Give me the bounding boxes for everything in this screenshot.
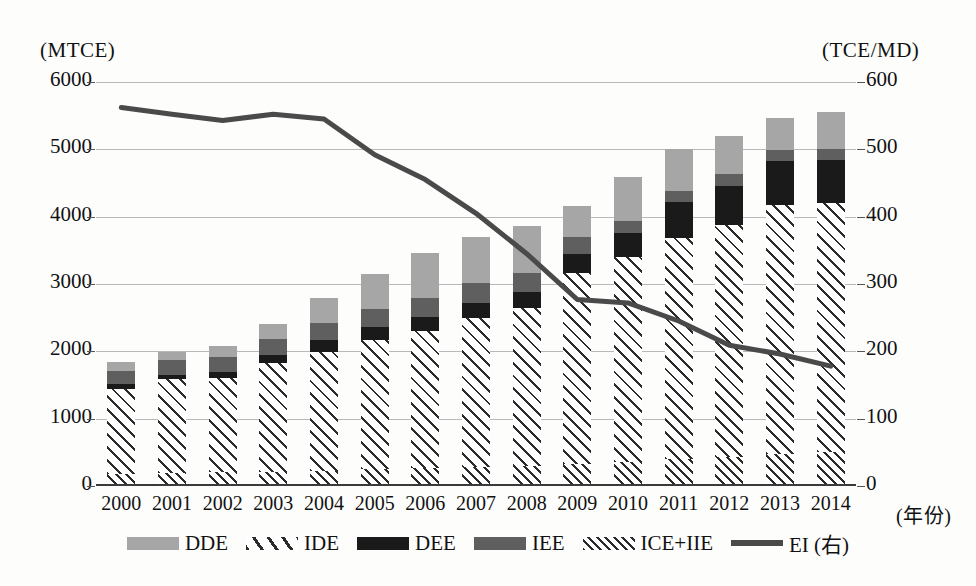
bar-segment-iee (158, 360, 186, 374)
bar-2005 (361, 274, 389, 486)
bar-segment-ide (107, 389, 135, 474)
bar-segment-dde (259, 324, 287, 338)
bar-segment-dde (209, 346, 237, 357)
x-tick-label-2010: 2010 (602, 492, 654, 515)
bar-segment-iee (361, 309, 389, 327)
legend-label: ICE+IIE (641, 531, 714, 556)
legend-item-ice+iie[interactable]: ICE+IIE (583, 531, 714, 556)
right-tick-label: 100 (866, 404, 956, 429)
legend-label: EI (右) (789, 528, 849, 558)
left-axis-unit-label: (MTCE) (40, 38, 115, 63)
bar-2008 (513, 226, 541, 486)
bar-2012 (715, 136, 743, 486)
right-tick-label: 300 (866, 269, 956, 294)
bar-segment-ide (209, 378, 237, 472)
legend-item-iee[interactable]: IEE (474, 531, 565, 556)
left-tick-mark (87, 149, 95, 150)
bar-segment-dde (462, 237, 490, 283)
right-tick-mark (857, 82, 865, 83)
bar-segment-ide (310, 352, 338, 471)
bar-segment-ice-iie (614, 462, 642, 486)
bar-segment-ide (817, 203, 845, 453)
left-tick-mark (87, 284, 95, 285)
x-tick-label-2006: 2006 (399, 492, 451, 515)
cross-hatch-icon (583, 537, 635, 550)
bar-segment-dee (817, 160, 845, 202)
bar-2001 (158, 352, 186, 486)
bar-segment-ide (361, 340, 389, 469)
left-tick-label: 3000 (0, 269, 92, 294)
right-tick-mark (857, 149, 865, 150)
left-tick-mark (87, 217, 95, 218)
bar-segment-dde (766, 118, 794, 150)
bar-2014 (817, 112, 845, 486)
bar-segment-ice-iie (766, 454, 794, 486)
right-tick-mark (857, 284, 865, 285)
legend-item-ide[interactable]: IDE (246, 531, 339, 556)
legend-label: DDE (185, 531, 228, 556)
gridline (96, 82, 856, 83)
bar-2003 (259, 324, 287, 486)
bar-segment-iee (715, 174, 743, 185)
bar-segment-iee (766, 150, 794, 161)
x-tick-label-2004: 2004 (298, 492, 350, 515)
legend-item-dde[interactable]: DDE (127, 531, 228, 556)
left-tick-label: 6000 (0, 67, 92, 92)
x-tick-label-2003: 2003 (247, 492, 299, 515)
bar-segment-dee (614, 233, 642, 257)
bar-segment-dee (462, 303, 490, 318)
x-tick-label-2001: 2001 (146, 492, 198, 515)
x-tick-label-2002: 2002 (197, 492, 249, 515)
bar-segment-ide (715, 225, 743, 457)
bar-segment-ide (259, 363, 287, 471)
bar-segment-dee (411, 317, 439, 330)
bar-segment-dde (715, 136, 743, 174)
black-icon (357, 537, 409, 550)
bar-segment-dde (665, 149, 693, 191)
bar-segment-dde (411, 253, 439, 297)
x-tick-label-2005: 2005 (349, 492, 401, 515)
bar-segment-iee (209, 357, 237, 372)
bar-2013 (766, 118, 794, 486)
legend-item-ei[interactable]: EI (右) (731, 528, 849, 558)
bar-segment-ide (411, 331, 439, 468)
bar-segment-iee (563, 237, 591, 255)
bar-2006 (411, 253, 439, 486)
bar-segment-dde (310, 298, 338, 322)
bar-segment-dee (310, 340, 338, 352)
bar-segment-dee (715, 186, 743, 225)
bar-segment-iee (310, 323, 338, 341)
plot-area (96, 82, 856, 486)
bar-2010 (614, 177, 642, 486)
x-tick-label-2009: 2009 (551, 492, 603, 515)
right-tick-label: 0 (866, 471, 956, 496)
left-tick-label: 1000 (0, 404, 92, 429)
line-icon (731, 540, 783, 546)
bar-segment-ide (665, 238, 693, 459)
legend-label: DEE (415, 531, 456, 556)
legend: DDEIDEDEEIEEICE+IIEEI (右) (0, 528, 976, 558)
bar-segment-dde (107, 362, 135, 371)
left-tick-label: 5000 (0, 134, 92, 159)
bar-2007 (462, 237, 490, 486)
left-tick-mark (87, 351, 95, 352)
left-tick-label: 0 (0, 471, 92, 496)
bar-segment-dee (107, 384, 135, 389)
legend-item-dee[interactable]: DEE (357, 531, 456, 556)
bar-2011 (665, 149, 693, 486)
light-gray-icon (127, 537, 179, 550)
bar-segment-dee (665, 202, 693, 238)
bar-segment-ide (462, 318, 490, 467)
bar-2004 (310, 298, 338, 486)
right-tick-mark (857, 217, 865, 218)
bar-segment-ide (513, 308, 541, 466)
right-tick-label: 400 (866, 202, 956, 227)
x-tick-label-2011: 2011 (653, 492, 705, 515)
bar-segment-iee (107, 371, 135, 384)
right-tick-mark (857, 351, 865, 352)
bar-segment-iee (817, 149, 845, 160)
bar-segment-ice-iie (817, 452, 845, 486)
right-tick-label: 500 (866, 134, 956, 159)
bar-segment-iee (259, 339, 287, 355)
bar-segment-ide (766, 205, 794, 454)
